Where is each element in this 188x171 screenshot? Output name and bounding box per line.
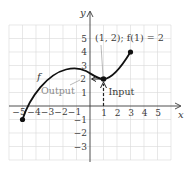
x-tick-label: −3: [41, 107, 55, 117]
x-tick-label: 2: [115, 108, 121, 118]
y-tick-label: −1: [74, 115, 87, 125]
input-label: Input: [109, 86, 135, 97]
left-endpoint: [20, 117, 25, 122]
y-tick-label: 5: [81, 34, 87, 44]
x-tick-label: 1: [101, 108, 107, 118]
x-tick-label: −2: [54, 107, 67, 117]
highlighted-point: [101, 76, 107, 82]
y-tick-label: 4: [81, 47, 87, 57]
x-tick-label: 5: [155, 108, 161, 118]
point-label: (1, 2); f(1) = 2: [95, 32, 164, 43]
function-label: f: [36, 71, 43, 82]
y-tick-label: 2: [80, 74, 86, 84]
x-tick-label: 4: [142, 108, 148, 118]
x-tick-label: 3: [128, 108, 134, 118]
x-tick-label: −4: [27, 107, 41, 117]
point-label-leader: [101, 45, 103, 76]
y-tick-label: −3: [74, 142, 88, 152]
y-tick-label: 1: [81, 88, 87, 98]
right-endpoint: [128, 49, 133, 54]
x-axis-label: x: [178, 109, 184, 120]
y-tick-label: −2: [74, 128, 87, 138]
function-graph: x y −5 −4 −3 −2 −1 1 2 3 4 5 5 4 3 2 1 −…: [0, 0, 188, 171]
output-label: Output: [41, 85, 75, 96]
y-axis-label: y: [79, 7, 86, 18]
